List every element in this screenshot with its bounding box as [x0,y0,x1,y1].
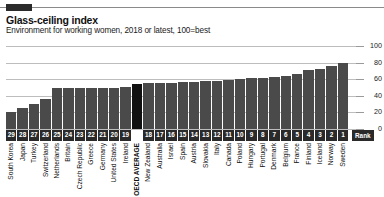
category-label: Britain [63,143,73,195]
category-label: Belgium [281,143,291,195]
bar [200,81,210,129]
rank-chip: 25 [52,130,62,141]
y-tick-label: 100 [370,42,382,50]
plot-area [6,46,348,129]
bar [292,74,302,129]
category-label: Finland [303,143,313,195]
bar [52,88,62,129]
category-label-text: Finland [305,143,312,165]
bar [63,88,73,129]
y-tick-mark [356,46,364,47]
rank-chip: 19 [120,130,130,141]
category-label-text: Czech Republic [77,143,84,189]
bar [132,84,142,129]
category-label-text: France [294,143,301,164]
category-label-text: Ireland [122,143,129,163]
category-label: Japan [17,143,27,195]
y-tick-label: 40 [374,92,382,100]
category-label: Israel [166,143,176,195]
category-label: Australia [155,143,165,195]
category-label-text: Slovakia [202,143,209,168]
bar [155,83,165,129]
category-label-text: Portugal [260,143,267,168]
y-tick-mark [356,79,364,80]
category-label: Canada [223,143,233,195]
category-label: Denmark [269,143,279,195]
category-label: Ireland [120,143,130,195]
rank-row: 2928272625242322212019181716151413121110… [6,130,348,141]
category-label: Turkey [29,143,39,195]
rank-chip: 27 [29,130,39,141]
bar [212,81,222,129]
category-label-text: Belgium [282,143,289,167]
bar [189,82,199,129]
rank-chip: 24 [63,130,73,141]
brand-rule [0,7,384,8]
bar [29,104,39,129]
category-label: Italy [212,143,222,195]
bar [315,69,325,129]
rank-chip: 7 [269,130,279,141]
bar [338,63,348,129]
chart-subtitle: Environment for working women, 2018 or l… [6,26,210,35]
category-label: Hungary [246,143,256,195]
bar [178,82,188,129]
bar [326,66,336,129]
glass-ceiling-index-chart: Glass-ceiling index Environment for work… [0,0,384,197]
rank-chip: 23 [75,130,85,141]
rank-chip: 10 [235,130,245,141]
category-label-text: Switzerland [42,143,49,177]
category-label: France [292,143,302,195]
bar [86,88,96,129]
category-label-text: Australia [157,143,164,169]
y-axis: 020406080100 [352,40,384,136]
rank-chip: 18 [143,130,153,141]
bar [6,112,16,129]
rank-chip: 5 [292,130,302,141]
rank-axis-label: Rank [352,130,374,141]
category-label: New Zealand [143,143,153,195]
bar [246,78,256,129]
brand-marker-icon [6,4,32,11]
rank-chip: 22 [86,130,96,141]
category-label: Netherlands [52,143,62,195]
category-label-text: Japan [19,143,26,161]
rank-chip: 4 [303,130,313,141]
bar [258,78,268,129]
category-label: Portugal [258,143,268,195]
rank-chip: 11 [223,130,233,141]
category-label-text: Iceland [317,143,324,164]
bar-series [6,46,348,129]
rank-chip: 14 [189,130,199,141]
category-label-text: Italy [214,143,221,155]
category-label-text: Turkey [31,143,38,163]
bar [223,80,233,129]
rank-chip: 26 [40,130,50,141]
rank-chip: 16 [166,130,176,141]
bar [235,79,245,129]
bar [109,88,119,130]
y-tick-mark [356,63,364,64]
category-label-text: Greece [88,143,95,165]
rank-chip: 6 [281,130,291,141]
category-label-text: Netherlands [54,143,61,179]
bar [166,83,176,129]
category-label-text: Germany [99,143,106,170]
category-label: Spain [178,143,188,195]
rank-chip: 21 [98,130,108,141]
category-label: Slovakia [200,143,210,195]
category-label: Norway [326,143,336,195]
rank-chip: 20 [109,130,119,141]
category-label-text: OECD AVERAGE [134,143,141,196]
category-label-text: Britain [65,143,72,162]
category-label-text: Norway [328,143,335,165]
y-tick-label: 20 [374,108,382,116]
rank-chip: 15 [178,130,188,141]
bar [98,88,108,129]
rank-chip: 8 [258,130,268,141]
bar [75,88,85,129]
category-label: South Korea [6,143,16,195]
category-label: Sweden [338,143,348,195]
category-label-text: Austria [191,143,198,164]
bar [120,87,130,129]
